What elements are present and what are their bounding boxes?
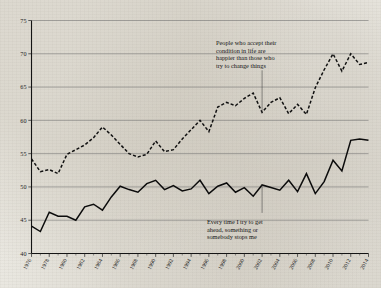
x-tick-label: 2004 [270,257,281,270]
annotation-line: condition in life are [216,47,266,54]
x-tick-label: 2014 [359,257,370,270]
y-axis-tick-labels: 4045505560657075 [20,17,26,257]
x-tick-label: 1992 [164,257,175,270]
x-tick-label: 1978 [40,257,51,270]
x-tick-label: 2012 [341,257,352,270]
chart-canvas: 4045505560657075 19761978198019821984198… [0,0,381,288]
annotation-line: People who accept their [216,39,277,46]
x-tick-label: 1994 [181,257,192,270]
x-tick-label: 2002 [252,257,263,270]
annotation-line: ahead, something or [207,226,259,233]
x-tick-label: 1986 [111,257,122,270]
annotation-line: somebody stops me [207,233,257,240]
line-chart: 4045505560657075 19761978198019821984198… [0,0,381,288]
y-tick-label: 60 [20,117,26,124]
annotation-line: happier than those who [216,54,275,61]
x-tick-label: 1976 [22,257,33,270]
annotation-accept-condition: People who accept theircondition in life… [216,39,277,112]
y-tick-label: 65 [20,83,26,90]
x-tick-label: 1982 [75,257,86,270]
y-tick-label: 45 [20,216,26,223]
x-axis-tick-labels: 1976197819801982198419861988199019921994… [22,257,370,270]
y-tick-label: 70 [20,50,26,57]
x-tick-label: 1996 [199,257,210,270]
y-tick-label: 40 [20,250,26,257]
x-tick-label: 1980 [57,257,68,270]
x-tick-label: 2008 [306,257,317,270]
x-tick-label: 1998 [217,257,228,270]
y-tick-label: 75 [20,17,26,24]
x-tick-label: 2000 [235,257,246,270]
y-tick-label: 55 [20,150,26,157]
x-tick-label: 1984 [93,257,104,270]
annotation-try-to-get-ahead: Every time I try to getahead, something … [207,185,263,240]
chart-annotations: People who accept theircondition in life… [207,39,277,240]
series-line-try-to-get-ahead [32,139,369,232]
x-tick-label: 2006 [288,257,299,270]
annotation-line: try to change things [216,62,266,69]
annotation-line: Every time I try to get [207,218,263,225]
x-tick-label: 1990 [146,257,157,270]
x-tick-label: 1988 [128,257,139,270]
y-tick-label: 50 [20,183,26,190]
x-tick-label: 2010 [323,257,334,270]
series-line-accept-condition [32,54,369,174]
